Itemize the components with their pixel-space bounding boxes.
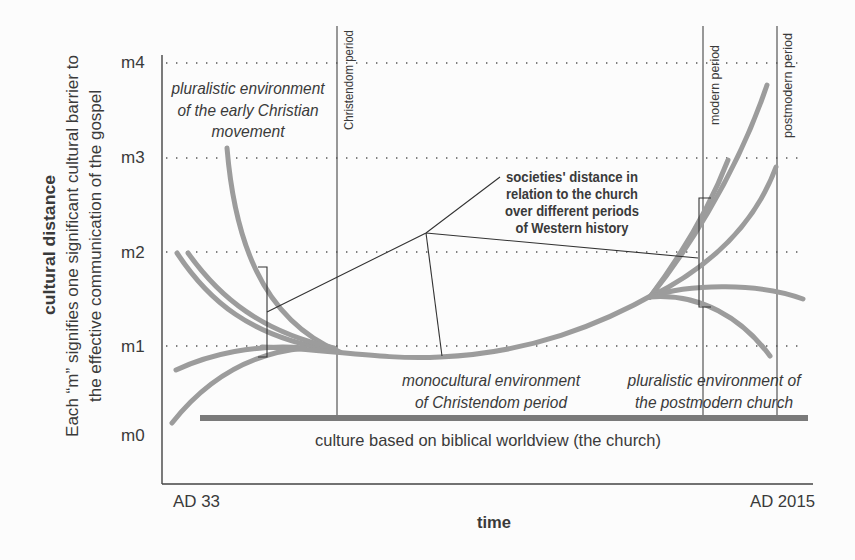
postmodern-annotation: pluralistic environment of the postmoder… — [627, 371, 803, 412]
leader-to-left-bracket — [267, 177, 500, 312]
early-annotation-line1: pluralistic environment — [171, 79, 326, 98]
x-axis-end-label: AD 2015 — [750, 492, 815, 511]
postmodern-annotation-line1: pluralistic environment of — [627, 371, 803, 390]
postmodern-annotation-line2: the postmodern church — [635, 393, 793, 412]
x-axis-title: time — [477, 513, 511, 532]
y-axis-subtitle-line1: Each “m” signifies one significant cultu… — [63, 55, 82, 437]
x-axis-start-label: AD 33 — [173, 492, 220, 511]
y-ticks: m4 m3 m2 m1 m0 — [121, 53, 145, 445]
callout-line4: of Western history — [516, 219, 630, 236]
y-tick-m4: m4 — [121, 53, 145, 72]
y-tick-m3: m3 — [121, 148, 145, 167]
christendom-annotation-line2: of Christendom period — [415, 393, 567, 412]
callout-line2: relation to the church — [506, 185, 638, 202]
y-axis-subtitle-line2: the effective communication of the gospe… — [86, 90, 105, 402]
modern-period-label: modern period — [707, 45, 722, 125]
callout-line3: over different periods — [505, 202, 639, 219]
early-annotation-line2: of the early Christian — [178, 101, 319, 120]
y-tick-m1: m1 — [121, 337, 145, 356]
early-curve-e — [172, 348, 305, 423]
leader-to-main-curve — [426, 233, 442, 356]
y-tick-m0: m0 — [121, 426, 145, 445]
branch-curve-3 — [650, 167, 776, 297]
early-environment-annotation: pluralistic environment of the early Chr… — [171, 79, 326, 141]
christendom-annotation: monocultural environment of Christendom … — [402, 371, 581, 412]
callout-annotation: societies' distance in relation to the c… — [505, 168, 639, 236]
postmodern-period-label: postmodern period — [780, 33, 795, 138]
y-axis-title: cultural distance — [40, 175, 59, 315]
cultural-distance-diagram: cultural distance Each “m” signifies one… — [0, 0, 855, 560]
branch-curve-5 — [650, 297, 770, 356]
christendom-period-label: Christendom period — [341, 30, 356, 130]
leader-to-right-bracket — [426, 233, 698, 258]
y-tick-m2: m2 — [121, 243, 145, 262]
y-axis-title-group: cultural distance Each “m” signifies one… — [40, 55, 105, 437]
christendom-annotation-line1: monocultural environment — [402, 371, 581, 390]
early-annotation-line3: movement — [212, 122, 286, 141]
callout-line1: societies' distance in — [506, 168, 638, 185]
church-baseline-label: culture based on biblical worldview (the… — [315, 431, 661, 450]
